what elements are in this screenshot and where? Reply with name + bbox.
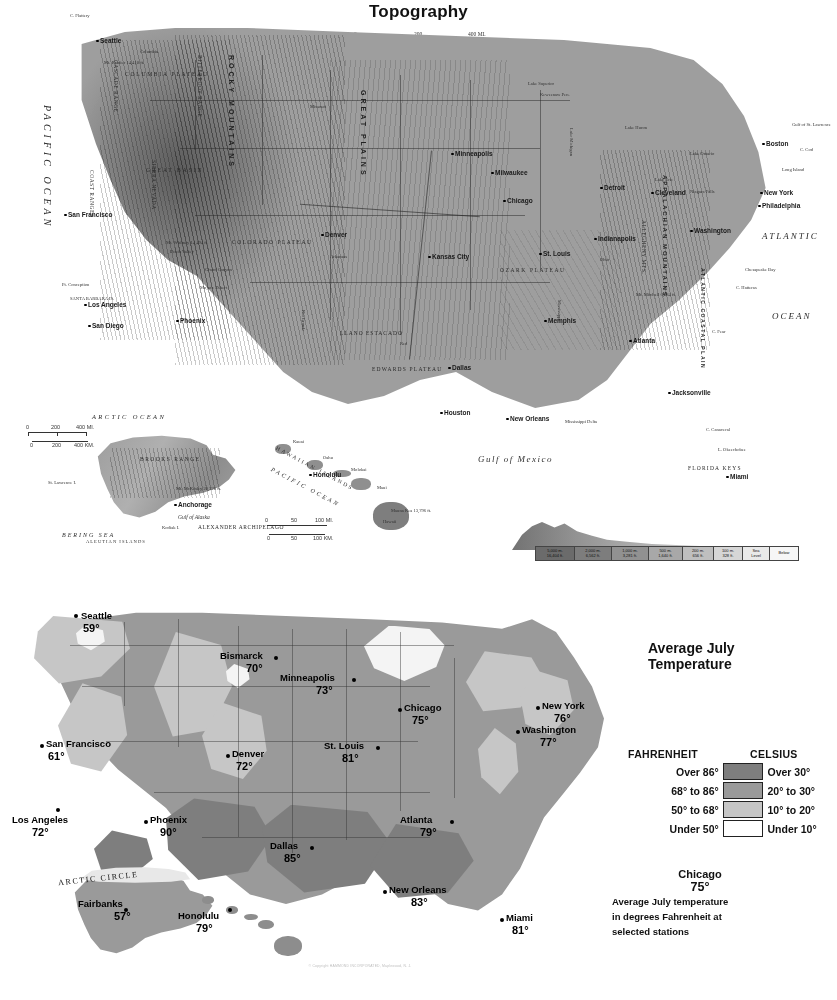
death-valley-label: Death Valley: [170, 250, 194, 255]
hawaii-inset-temperature: Honolulu 79°: [190, 880, 340, 965]
temperature-title-line2: Temperature: [648, 656, 828, 672]
legend-swatch-68-86: [723, 782, 763, 799]
topo-city-new-orleans: New Orleans: [510, 416, 549, 423]
niagara-falls-label: Niagara Falls: [690, 190, 715, 195]
legend-header-fahrenheit: FAHRENHEIT: [628, 748, 724, 760]
station-san-francisco-value: 61°: [48, 750, 65, 762]
legend-row-68-86: 68° to 86° 20° to 30°: [628, 781, 828, 800]
station-chicago-value: 75°: [412, 714, 429, 726]
elevation-color-bar: 5,000 m.16,404 ft. 2,000 m.6,562 ft. 1,0…: [535, 546, 799, 561]
hi-scale-km-50: 50: [291, 535, 297, 541]
elev-swatch-1000: 1,000 m.3,281 ft.: [612, 547, 649, 560]
elev-swatch-5000: 5,000 m.16,404 ft.: [536, 547, 575, 560]
ozark-plateau-label: OZARK PLATEAU: [500, 268, 566, 274]
station-washington-value: 77°: [540, 736, 557, 748]
molokai-label: Molokai: [351, 468, 367, 473]
elev-ft-6562: 6,562 ft.: [586, 553, 600, 558]
topography-map-panel: Topography 0 200 400 MI. 0 200 400 KM.: [0, 0, 837, 575]
okeechobee-label: L. Okeechobee: [718, 448, 746, 453]
ak-scale-mi-0: 0: [26, 424, 29, 430]
hawaii-label: Hawaii: [383, 520, 396, 525]
topo-city-indianapolis: Indianapolis: [598, 236, 636, 243]
mt-whitney-ft: 14,494 ft.: [191, 240, 209, 245]
gulf-of-alaska-label: Gulf of Alaska: [178, 514, 208, 521]
station-seattle-value: 59°: [83, 622, 100, 634]
ak-scale-km-400: 400 KM.: [74, 442, 94, 448]
river-ohio-label: Ohio: [600, 258, 609, 263]
lake-ontario-label: Lake Ontario: [690, 152, 714, 157]
station-san-francisco-name: San Francisco: [46, 738, 111, 749]
hi-scale-km-0: 0: [267, 535, 270, 541]
santa-barbara-is-label: SANTA BARBARA IS.: [70, 296, 96, 302]
topo-city-chicago: Chicago: [507, 198, 533, 205]
mauna-kea-name: Mauna Kea: [391, 508, 412, 513]
topo-city-san-francisco: San Francisco: [68, 212, 112, 219]
topo-city-detroit: Detroit: [604, 185, 625, 192]
ak-scale-mi-400: 400 MI.: [76, 424, 94, 430]
bitterroot-range-label: BITTERROOT RANGE: [196, 55, 202, 117]
grand-canyon-label: Grand Canyon: [205, 268, 232, 273]
hawaii-island-shape: [373, 502, 409, 530]
topo-city-jacksonville: Jacksonville: [672, 390, 711, 397]
mt-mitchell-summit: Mt. Mitchell 6,684 ft.: [636, 292, 688, 297]
legend-swatch-over-86: [723, 763, 763, 780]
maui-shape: [351, 478, 371, 490]
topo-city-san-diego: San Diego: [92, 323, 124, 330]
mt-mckinley-ft: 20,320 ft.: [203, 486, 221, 491]
key-example-note-3: selected stations: [612, 925, 812, 939]
station-fairbanks-name: Fairbanks: [78, 898, 123, 909]
station-los-angeles-value: 72°: [32, 826, 49, 838]
maui-label: Maui: [377, 486, 387, 491]
station-new-orleans-name: New Orleans: [389, 884, 447, 895]
elev-ft-656: 656 ft.: [692, 553, 703, 558]
mt-mitchell-ft: 6,684 ft.: [660, 292, 675, 297]
topo-city-boston: Boston: [766, 141, 788, 148]
topography-relief-canvas: PACIFIC OCEAN ATLANTIC OCEAN Gulf of Mex…: [0, 0, 837, 575]
key-example-value: 75°: [612, 880, 788, 894]
great-plains-label: GREAT PLAINS: [360, 90, 367, 178]
mauna-kea-summit: Mauna Kea 13,796 ft.: [391, 508, 431, 513]
topo-city-minneapolis: Minneapolis: [455, 151, 493, 158]
station-denver-value: 72°: [236, 760, 253, 772]
mt-rainier-ft: 14,410 ft.: [126, 60, 144, 65]
station-bismarck-value: 70°: [246, 662, 263, 674]
river-mississippi-label: Mississippi: [556, 300, 561, 321]
aleutian-islands-label: ALEUTIAN ISLANDS: [86, 540, 146, 545]
hi-scale-mi-0: 0: [265, 517, 268, 523]
topo-city-philadelphia: Philadelphia: [762, 203, 800, 210]
station-dallas-name: Dallas: [270, 840, 298, 851]
key-example-note-1: Average July temperature: [612, 895, 812, 909]
station-minneapolis-value: 73°: [316, 684, 333, 696]
alaska-inset-topography: ARCTIC OCEAN BERING SEA BROOKS RANGE Anc…: [30, 418, 260, 548]
river-arkansas-label: Arkansas: [330, 255, 347, 260]
topo-city-los-angeles: Los Angeles: [88, 302, 126, 309]
legend-swatch-under-50: [723, 820, 763, 837]
station-st-louis-value: 81°: [342, 752, 359, 764]
hi-scale-km-100: 100 KM.: [313, 535, 333, 541]
station-miami-value: 81°: [512, 924, 529, 936]
arctic-ocean-label: ARCTIC OCEAN: [92, 414, 166, 421]
station-chicago-name: Chicago: [404, 702, 441, 713]
station-atlanta-name: Atlanta: [400, 814, 432, 825]
station-dallas-value: 85°: [284, 852, 301, 864]
station-new-york-value: 76°: [554, 712, 571, 724]
hi-scale-mi-100: 100 MI.: [315, 517, 333, 523]
river-rio-grande-label: Rio Grande: [300, 310, 305, 331]
ozark-texture: [500, 230, 620, 350]
kodiak-island-label: Kodiak I.: [162, 526, 179, 531]
elev-swatch-200: 200 m.656 ft.: [683, 547, 714, 560]
topo-city-anchorage: Anchorage: [178, 502, 212, 509]
station-minneapolis-name: Minneapolis: [280, 672, 335, 683]
topo-city-seattle: Seattle: [100, 38, 121, 45]
alexander-archipelago-label: ALEXANDER ARCHIPELAGO: [198, 524, 244, 531]
gulf-of-mexico-label: Gulf of Mexico: [478, 455, 553, 464]
elev-level: Level: [751, 553, 761, 558]
mojave-desert-label: Mojave Desert: [200, 286, 227, 291]
temperature-legend: FAHRENHEIT CELSIUS Over 86° Over 30° 68°…: [628, 748, 828, 838]
legend-f-68-86: 68° to 86°: [628, 785, 723, 797]
station-st-louis-name: St. Louis: [324, 740, 364, 751]
station-seattle-name: Seattle: [81, 610, 112, 621]
llano-estacado-label: LLANO ESTACADO: [340, 330, 374, 337]
topo-city-milwaukee: Milwaukee: [495, 170, 528, 177]
station-atlanta-value: 79°: [420, 826, 437, 838]
